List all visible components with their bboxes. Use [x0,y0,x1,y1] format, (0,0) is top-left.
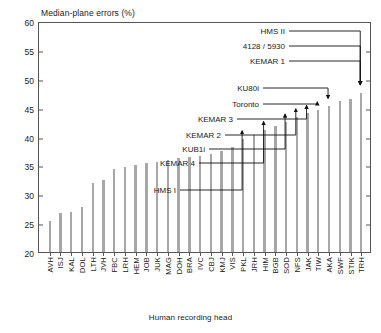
bar [220,151,222,252]
bar [231,147,233,252]
bar [296,117,298,252]
bar [177,158,179,252]
x-axis-tick-mark [275,252,276,256]
x-axis-tick-mark [361,252,362,256]
bar [70,212,72,252]
x-axis-tick-mark [179,252,180,256]
y-axis-title: Median-plane errors (%) [41,8,135,18]
x-axis-tick-label: DOH [174,257,183,274]
x-axis-tick-mark [340,252,341,256]
bar [306,113,308,252]
x-axis-tick-label: KAL [67,257,76,272]
x-axis-tick-mark [286,252,287,256]
x-axis-tick-label: NFS [292,257,301,273]
bar [210,154,212,252]
median-plane-errors-chart: Median-plane errors (%) 2025303540455055… [0,0,381,333]
x-axis-tick-mark [232,252,233,256]
x-axis-tick-label: PKL [239,257,248,272]
y-axis-tick-label: 20 [25,249,39,259]
x-axis-tick-mark [60,252,61,256]
annotation-label: KU80i [0,84,259,93]
y-axis-tick-mark [366,167,370,168]
x-axis-tick-label: AVH [45,257,54,272]
y-axis-tick-mark [366,225,370,226]
annotation-label: KEMAR 1 [0,57,285,66]
bar [113,169,115,252]
x-axis-tick-label: JAK [303,257,312,271]
annotation-label: Toronto [0,100,259,109]
x-axis-tick-label: DOL [77,257,86,273]
x-axis-tick-label: IVC [196,257,205,270]
bar [328,106,330,252]
x-axis-tick-mark [351,252,352,256]
bar [274,126,276,252]
x-axis-tick-label: JUK [153,257,162,272]
x-axis-tick-label: HIM [260,257,269,271]
y-axis-tick-mark [39,225,43,226]
x-axis-tick-mark [329,252,330,256]
x-axis-tick-label: SWF [335,257,344,274]
x-axis-tick-mark [136,252,137,256]
x-axis-tick-mark [189,252,190,256]
x-axis-tick-mark [71,252,72,256]
x-axis-tick-label: TIW [314,257,323,271]
x-axis-tick-label: LTH [88,257,97,271]
x-axis-tick-label: ISJ [56,257,65,268]
bar [59,213,61,252]
x-axis-tick-label: VIS [228,257,237,270]
y-axis-tick-mark [366,51,370,52]
x-axis-tick-label: KMJ [217,257,226,273]
bar [263,130,265,252]
x-axis-tick-mark [93,252,94,256]
x-axis-tick-mark [308,252,309,256]
x-axis-tick-label: MAG [163,257,172,275]
x-axis-tick-mark [168,252,169,256]
bar [188,157,190,252]
bar [242,139,244,252]
x-axis-tick-mark [211,252,212,256]
annotation-label: 4128 / 5930 [0,42,285,51]
annotation-label: HMS II [0,27,285,36]
annotation-label: KEMAR 2 [0,131,221,140]
bar [81,207,83,252]
x-axis-tick-mark [125,252,126,256]
y-axis-tick-mark [39,196,43,197]
y-axis-tick-label: 25 [25,220,39,230]
y-axis-tick-mark [39,51,43,52]
x-axis-tick-label: LRH [120,257,129,273]
x-axis-tick-label: AKA [325,257,334,273]
x-axis-tick-label: BRA [185,257,194,273]
x-axis-tick-label: HEM [131,257,140,274]
bar [156,162,158,252]
x-axis-tick-mark [82,252,83,256]
x-axis-tick-label: SOD [282,257,291,274]
x-axis-tick-label: JRH [249,257,258,272]
x-axis-tick-label: STIK [346,257,355,274]
x-axis-tick-mark [50,252,51,256]
bar [349,99,351,252]
annotation-label: HMS I [0,186,176,195]
y-axis-tick-mark [366,196,370,197]
bar [253,135,255,252]
bar [199,156,201,252]
x-axis-tick-label: TRH [357,257,366,273]
x-axis-tick-mark [265,252,266,256]
x-axis-tick-mark [200,252,201,256]
y-axis-tick-mark [366,138,370,139]
annotation-label: KUB1i [0,145,205,154]
x-axis-tick-mark [297,252,298,256]
x-axis-tick-label: JVH [99,257,108,272]
x-axis-tick-mark [318,252,319,256]
x-axis-tick-label: JOB [142,257,151,272]
bar [317,110,319,252]
x-axis-tick-mark [243,252,244,256]
bar [285,122,287,252]
x-axis-tick-label: FBC [110,257,119,273]
x-axis-tick-label: CBJ [206,257,215,272]
x-axis-tick-mark [254,252,255,256]
bar [167,160,169,252]
y-axis-tick-mark [39,109,43,110]
x-axis-tick-mark [146,252,147,256]
bar [124,167,126,252]
bar [49,221,51,252]
